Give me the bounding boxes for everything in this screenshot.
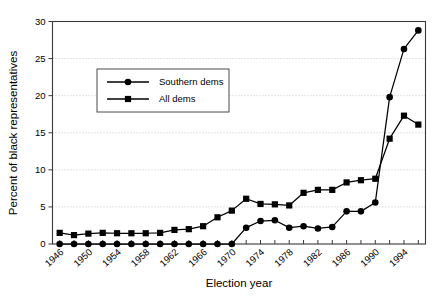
data-point (157, 241, 164, 248)
data-point (200, 241, 207, 248)
chart-legend: Southern demsAll dems (97, 69, 229, 112)
data-point (100, 230, 106, 236)
data-point (257, 218, 264, 225)
data-point (272, 201, 278, 207)
x-axis-title: Election year (206, 277, 273, 289)
data-point (286, 202, 292, 208)
data-point (300, 223, 307, 230)
legend-label: Southern dems (159, 76, 224, 87)
data-point (200, 223, 206, 229)
data-point (171, 241, 178, 248)
data-point (71, 232, 77, 238)
legend-square-marker-icon (125, 96, 131, 102)
data-point (286, 224, 293, 231)
data-point (99, 241, 106, 248)
data-point (229, 208, 235, 214)
data-point (358, 177, 364, 183)
data-point (243, 196, 249, 202)
data-point (387, 136, 393, 142)
data-point (114, 241, 121, 248)
data-point (57, 230, 63, 236)
data-point (214, 241, 221, 248)
y-tick-label-10: 10 (35, 164, 46, 175)
data-point (71, 241, 78, 248)
data-point (343, 208, 350, 215)
y-tick-label-30: 30 (35, 16, 46, 27)
data-point (114, 230, 120, 236)
data-point (171, 227, 177, 233)
y-tick-label-0: 0 (40, 238, 45, 249)
y-tick-label-20: 20 (35, 90, 46, 101)
data-point (243, 224, 250, 231)
data-point (157, 230, 163, 236)
data-point (386, 94, 393, 101)
data-point (300, 190, 306, 196)
data-point (85, 241, 92, 248)
data-point (214, 214, 220, 220)
data-point (343, 179, 349, 185)
chart-figure: 051015202530 194619501954195819621966197… (0, 0, 440, 300)
data-point (329, 187, 335, 193)
line-chart-svg: 051015202530 194619501954195819621966197… (0, 0, 440, 300)
y-tick-label-5: 5 (40, 201, 45, 212)
data-point (185, 241, 192, 248)
data-point (85, 231, 91, 237)
data-point (229, 241, 236, 248)
data-point (128, 230, 134, 236)
legend-label: All dems (159, 93, 196, 104)
data-point (415, 121, 421, 127)
data-point (329, 224, 336, 231)
data-point (401, 113, 407, 119)
y-tick-label-15: 15 (35, 127, 46, 138)
data-point (315, 187, 321, 193)
data-point (415, 27, 422, 34)
data-point (142, 241, 149, 248)
data-point (372, 176, 378, 182)
data-point (128, 241, 135, 248)
data-point (358, 208, 365, 215)
data-point (186, 226, 192, 232)
data-point (56, 241, 63, 248)
data-point (315, 225, 322, 232)
data-point (401, 46, 408, 53)
y-tick-label-25: 25 (35, 53, 46, 64)
data-point (272, 217, 279, 224)
data-point (372, 199, 379, 206)
y-axis-title: Percent of black representatives (7, 51, 19, 216)
data-point (257, 201, 263, 207)
legend-circle-marker-icon (125, 79, 132, 86)
data-point (143, 230, 149, 236)
